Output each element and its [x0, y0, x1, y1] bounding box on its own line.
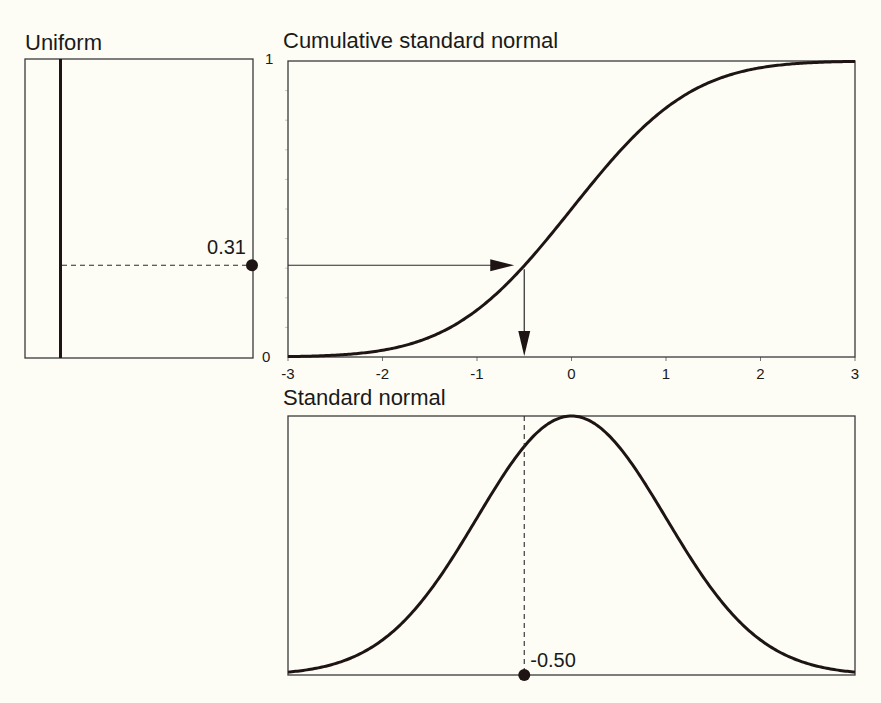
cdf-y-tick-0: 0: [262, 348, 270, 365]
lookup-horizontal-arrowhead: [490, 259, 514, 271]
cdf-x-tick-label: -1: [470, 365, 483, 382]
pdf-title: Standard normal: [283, 385, 446, 410]
cdf-x-ticks: -3-2-10123: [281, 357, 859, 382]
cdf-x-tick-label: 3: [851, 365, 859, 382]
cdf-x-tick-label: 0: [567, 365, 575, 382]
lookup-vertical-arrowhead: [518, 331, 530, 356]
pdf-curve: [288, 416, 855, 672]
pdf-marked-point: [518, 669, 530, 681]
uniform-title: Uniform: [25, 30, 102, 55]
figure: Uniform 0.31 Cumulative standard normal …: [0, 0, 881, 703]
cdf-title: Cumulative standard normal: [283, 28, 558, 53]
pdf-marked-label: -0.50: [530, 649, 576, 671]
uniform-sample-label: 0.31: [207, 236, 246, 258]
cdf-x-tick-label: -3: [281, 365, 294, 382]
cdf-y-tick-1: 1: [265, 50, 273, 67]
cdf-panel: Cumulative standard normal -3-2-10123 0 …: [262, 28, 859, 382]
cdf-curve: [288, 61, 855, 356]
uniform-panel: Uniform 0.31: [25, 30, 258, 358]
cdf-x-tick-label: -2: [376, 365, 389, 382]
pdf-frame: [288, 416, 855, 675]
cdf-x-tick-label: 2: [756, 365, 764, 382]
cdf-x-tick-label: 1: [662, 365, 670, 382]
pdf-panel: Standard normal -0.50: [283, 385, 855, 681]
uniform-sample-point: [246, 259, 258, 271]
